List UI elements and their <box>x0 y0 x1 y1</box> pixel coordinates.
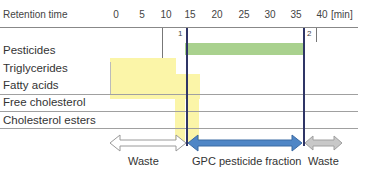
row-label-triglycerides: Triglycerides <box>3 62 68 74</box>
fraction-arrows <box>0 132 371 154</box>
row-label-free-cholesterol: Free cholesterol <box>3 96 85 108</box>
row-label-fatty-acids: Fatty acids <box>3 79 59 91</box>
marker-tick-1 <box>162 28 163 58</box>
tick-35: 35 <box>290 9 301 20</box>
tick-0: 0 <box>113 9 119 20</box>
bar-pesticides <box>185 43 303 55</box>
bar-fatty-acids <box>176 74 200 99</box>
marker-1-label: 1 <box>178 29 182 38</box>
row-label-pesticides: Pesticides <box>3 44 55 56</box>
bar-triglycerides <box>110 58 176 99</box>
tick-40: 40 <box>316 9 327 20</box>
row-label-cholesterol-esters: Cholesterol esters <box>3 114 96 126</box>
pesticide-fraction-arrow-icon <box>188 135 302 151</box>
waste-label-left: Waste <box>128 155 159 167</box>
marker-tick-2 <box>316 28 317 42</box>
tick-25: 25 <box>238 9 249 20</box>
axis-label: Retention time <box>3 9 67 20</box>
tick-15: 15 <box>184 9 195 20</box>
marker-2-label: 2 <box>307 29 311 38</box>
waste-arrow-right-icon <box>305 136 342 150</box>
waste-label-right: Waste <box>308 155 339 167</box>
waste-arrow-left-icon <box>110 135 186 151</box>
tick-10: 10 <box>160 9 171 20</box>
tick-5: 5 <box>139 9 145 20</box>
pesticide-fraction-label: GPC pesticide fraction <box>192 155 301 167</box>
cut-line-1 <box>186 28 188 146</box>
tick-20: 20 <box>211 9 222 20</box>
unit-label: [min] <box>331 9 353 20</box>
cut-line-2 <box>303 28 305 146</box>
tick-30: 30 <box>264 9 275 20</box>
triglyceride-edge <box>110 62 111 94</box>
